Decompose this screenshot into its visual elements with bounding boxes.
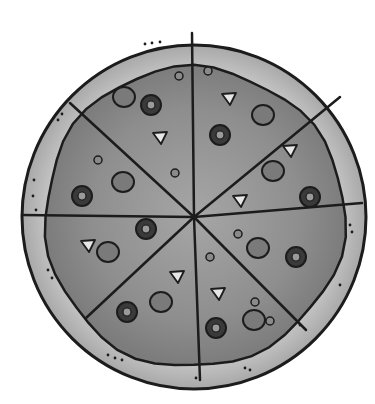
crust-speckle [121,359,124,362]
crust-speckle [114,357,117,360]
pepperoni [252,105,274,125]
crust-speckle [35,209,38,212]
pepperoni [113,87,135,107]
pepperoni [112,172,134,192]
crust-speckle [159,41,162,44]
crust-speckle [195,377,198,380]
topping-bit [234,230,242,238]
crust-speckle [144,43,147,46]
crust-speckle [339,284,342,287]
olive-hole [216,131,224,139]
crust-speckle [249,369,252,372]
topping-bit [171,169,179,177]
topping-bit [204,67,212,75]
crust-speckle [299,324,302,327]
topping-bit [266,317,274,325]
pepperoni [247,238,269,258]
pepperoni [243,310,265,330]
pepperoni [262,161,284,181]
crust-speckle [51,277,54,280]
topping-bit [206,253,214,261]
crust-speckle [349,224,352,227]
pizza-illustration [0,0,375,404]
crust-speckle [33,179,36,182]
pepperoni [150,292,172,312]
olive-hole [142,225,150,233]
topping-bit [251,298,259,306]
crust-speckle [351,231,354,234]
crust-speckle [244,367,247,370]
crust-speckle [47,269,50,272]
pizza-svg [0,0,375,404]
olive-hole [306,193,314,201]
crust-speckle [61,113,64,116]
olive-hole [292,253,300,261]
crust-speckle [107,354,110,357]
crust-speckle [57,119,60,122]
topping-bit [94,156,102,164]
olive-hole [147,101,155,109]
topping-bit [175,72,183,80]
olive-hole [212,324,220,332]
pepperoni [97,242,119,262]
crust-speckle [32,195,35,198]
olive-hole [123,308,131,316]
olive-hole [78,192,86,200]
crust-speckle [151,42,154,45]
